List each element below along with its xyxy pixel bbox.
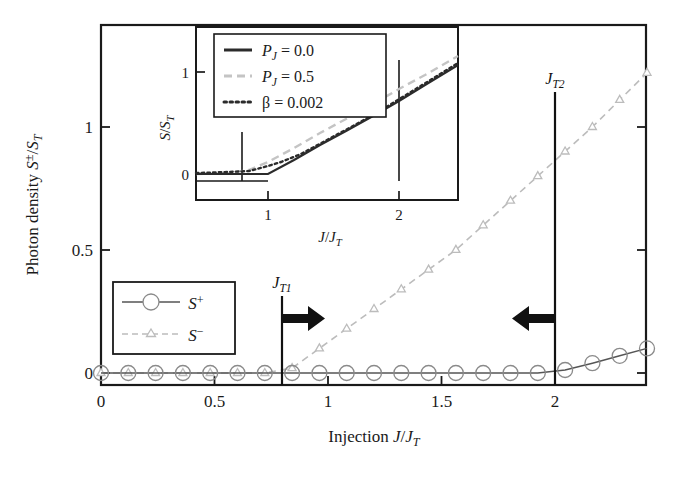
svg-text:Photon density S±/ST: Photon density S±/ST [22, 133, 45, 275]
main-y-tick-labels: 0 0.5 1 [72, 118, 93, 383]
xtick-2: 1 [324, 392, 333, 411]
ytick-1: 0.5 [72, 241, 93, 260]
main-yaxis-label: Photon density S±/ST [22, 133, 45, 275]
ylabel-den-sub: T [31, 133, 45, 141]
ytick-0: 0 [85, 364, 94, 383]
svg-text:Injection J/JT: Injection J/JT [328, 427, 421, 449]
inset-ytick-0: 0 [182, 167, 190, 183]
main-xaxis-label: Injection J/JT [328, 427, 421, 449]
xtick-0: 0 [97, 392, 106, 411]
main-legend: S+ S− [113, 282, 235, 354]
xlabel-den-sub: T [413, 435, 421, 449]
xlabel-prefix: Injection [328, 427, 393, 446]
xtick-1: 0.5 [204, 392, 225, 411]
inset-xtick-2: 2 [395, 207, 403, 223]
xtick-4: 2 [551, 392, 560, 411]
chart-svg: 0 0.5 1 1.5 2 0 0.5 1 Injection J/JT [0, 0, 676, 477]
inset-legend-label-beta: β = 0.002 [262, 94, 323, 112]
ylabel-prefix: Photon density [23, 170, 42, 276]
main-x-tick-labels: 0 0.5 1 1.5 2 [97, 392, 560, 411]
inset-legend: PJ = 0.0 PJ = 0.5 β = 0.002 [214, 34, 386, 117]
inset-xtick-1: 1 [264, 207, 272, 223]
ytick-2: 1 [85, 118, 94, 137]
inset-ytick-1: 1 [182, 65, 190, 81]
figure-root: 0 0.5 1 1.5 2 0 0.5 1 Injection J/JT [0, 0, 676, 477]
xtick-3: 1.5 [431, 392, 452, 411]
